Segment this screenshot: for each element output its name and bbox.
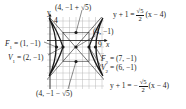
y-tick-label: 4	[54, 17, 58, 25]
point-bottom-label: (4, −1 − √5)	[36, 90, 72, 98]
point-V2-label: V2 = (6, −1)	[101, 64, 137, 74]
asymptote-positive-equation: y + 1 = √52 (x − 4)	[113, 8, 166, 22]
x-tick-label: 9	[98, 41, 102, 49]
point-F1-label: F1 = (1, −1)	[5, 40, 41, 50]
point-center-label: (4, −1)	[93, 28, 113, 36]
point-V1-label: V1 = (2, −1)	[8, 54, 44, 64]
y-axis-label: y	[47, 9, 51, 17]
x-axis-label: x	[106, 41, 109, 49]
point-top-label: (4, −1 + √5)	[55, 4, 91, 12]
asymptote-negative-equation: y + 1 = − √52 (x − 4)	[110, 79, 169, 93]
